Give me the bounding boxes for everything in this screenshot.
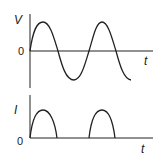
voltage-x-label: t (144, 54, 148, 68)
voltage-origin-label: 0 (18, 45, 24, 57)
current-graph: I 0 t (14, 95, 153, 156)
voltage-y-label: V (14, 13, 23, 27)
current-origin-label: 0 (17, 135, 23, 147)
current-x-label: t (141, 142, 145, 156)
current-y-label: I (14, 103, 18, 117)
current-rectified-curve (30, 110, 115, 138)
voltage-graph: V 0 t (14, 13, 153, 88)
diagram-canvas: V 0 t I 0 t (0, 0, 167, 161)
